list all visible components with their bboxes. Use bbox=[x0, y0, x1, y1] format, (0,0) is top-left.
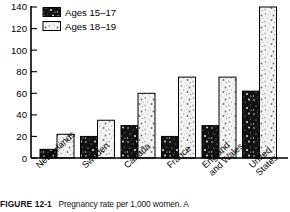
y-tick-label: 140 bbox=[11, 1, 27, 12]
y-tick-label: 40 bbox=[16, 109, 27, 120]
y-tick-label: 80 bbox=[16, 66, 27, 77]
figure-pregnancy-rate-chart: 140 120 100 80 60 40 20 0 Ages 15–17 bbox=[0, 0, 290, 212]
figure-caption: FIGURE 12-1 Pregnancy rate per 1,000 wom… bbox=[0, 199, 290, 212]
y-tick-label: 100 bbox=[11, 45, 27, 56]
bar-united-states-ages-15-17[interactable] bbox=[243, 91, 260, 158]
bar-united-states-ages-18-19[interactable] bbox=[260, 7, 277, 158]
figure-caption-text: Pregnancy rate per 1,000 women. A bbox=[59, 199, 189, 209]
y-tick-label: 0 bbox=[22, 153, 27, 164]
figure-caption-number: FIGURE 12-1 bbox=[0, 199, 52, 209]
y-tick-label: 60 bbox=[16, 88, 27, 99]
legend-swatch-ages-15-17 bbox=[43, 8, 61, 17]
legend-label-ages-18-19: Ages 18–19 bbox=[65, 21, 116, 32]
legend-label-ages-15-17: Ages 15–17 bbox=[65, 7, 116, 18]
legend-swatch-ages-18-19 bbox=[43, 22, 61, 31]
y-tick-labels: 140 120 100 80 60 40 20 0 bbox=[11, 1, 27, 163]
y-tick-label: 20 bbox=[16, 131, 27, 142]
y-tick-label: 120 bbox=[11, 23, 27, 34]
